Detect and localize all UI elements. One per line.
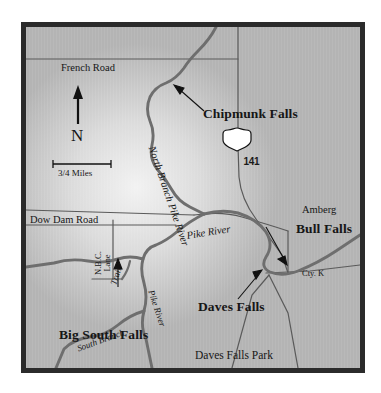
place-label-daves-falls-park: Daves Falls Park bbox=[195, 350, 273, 362]
road-label-nbc-lane-line2: Lane bbox=[103, 251, 112, 275]
scale-bar-label: 3/4 Miles bbox=[58, 169, 92, 178]
map-graphics bbox=[26, 27, 360, 368]
road-label-cty-k: Cty. K bbox=[302, 269, 324, 278]
highway-shield-141: 141 bbox=[239, 152, 264, 172]
falls-label-bull-falls: Bull Falls bbox=[296, 222, 352, 236]
map-canvas: French Road Dow Dam Road Cty. K N.B.C. L… bbox=[26, 27, 360, 368]
map-border-frame: French Road Dow Dam Road Cty. K N.B.C. L… bbox=[21, 22, 365, 373]
falls-label-chipmunk-falls: Chipmunk Falls bbox=[203, 107, 298, 121]
road-label-nbc-lane: N.B.C. Lane bbox=[94, 251, 112, 275]
place-label-amberg: Amberg bbox=[302, 205, 336, 216]
falls-label-daves-falls: Daves Falls bbox=[198, 300, 265, 314]
highway-shield-number: 141 bbox=[239, 156, 264, 167]
map-figure: French Road Dow Dam Road Cty. K N.B.C. L… bbox=[0, 0, 381, 393]
map-paper-texture bbox=[26, 27, 360, 368]
road-label-dow-dam-road: Dow Dam Road bbox=[30, 215, 98, 226]
road-label-french-road: French Road bbox=[61, 63, 115, 74]
compass-north-letter: N bbox=[71, 127, 83, 144]
